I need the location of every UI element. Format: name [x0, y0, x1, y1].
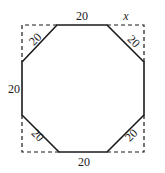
- label-top: 20: [76, 9, 88, 23]
- octagon-diagram: 20 x 20 20 20 20 20 20: [0, 0, 165, 173]
- label-top-right-diagonal: 20: [125, 32, 143, 50]
- label-bottom-left-diagonal: 20: [29, 126, 47, 144]
- label-top-left-diagonal: 20: [26, 30, 44, 48]
- label-left: 20: [8, 82, 20, 96]
- label-bottom-right-diagonal: 20: [122, 126, 140, 144]
- label-bottom: 20: [78, 155, 90, 169]
- label-corner-x: x: [122, 9, 129, 23]
